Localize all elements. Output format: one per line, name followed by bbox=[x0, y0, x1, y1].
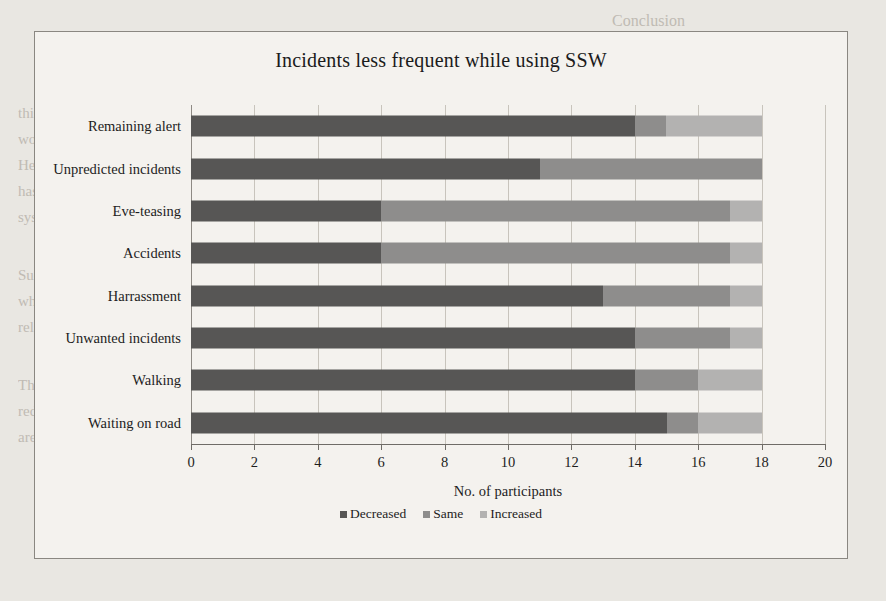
x-axis-tick-label: 8 bbox=[441, 454, 448, 471]
y-axis-category-label: Accidents bbox=[123, 246, 181, 261]
x-axis-tick-label: 2 bbox=[251, 454, 258, 471]
x-axis-tick bbox=[825, 444, 826, 450]
bar-segment-decreased bbox=[191, 285, 603, 306]
legend-swatch-increased bbox=[480, 511, 487, 518]
bar-segment-same bbox=[667, 412, 699, 433]
x-axis-tick-label: 0 bbox=[187, 454, 194, 471]
chart-row: Remaining alert bbox=[191, 105, 825, 147]
x-axis-tick-label: 14 bbox=[628, 454, 643, 471]
bar-segment-increased bbox=[730, 243, 762, 264]
bar-segment-decreased bbox=[191, 328, 635, 349]
x-axis-tick bbox=[698, 444, 699, 450]
stacked-bar bbox=[191, 116, 762, 137]
x-axis-tick bbox=[571, 444, 572, 450]
chart-row: Unwanted incidents bbox=[191, 317, 825, 359]
chart-row: Waiting on road bbox=[191, 402, 825, 444]
x-axis-tick bbox=[445, 444, 446, 450]
stacked-bar bbox=[191, 370, 762, 391]
bar-segment-increased bbox=[730, 285, 762, 306]
legend-item-same[interactable]: Same bbox=[423, 506, 463, 522]
x-axis-tick bbox=[508, 444, 509, 450]
x-axis-tick-label: 10 bbox=[501, 454, 516, 471]
legend-item-increased[interactable]: Increased bbox=[480, 506, 542, 522]
y-axis-category-label: Eve-teasing bbox=[113, 204, 181, 219]
stacked-bar bbox=[191, 200, 762, 221]
chart-row: Harrassment bbox=[191, 275, 825, 317]
y-axis-category-label: Walking bbox=[132, 373, 181, 388]
bar-segment-decreased bbox=[191, 158, 540, 179]
bar-segment-decreased bbox=[191, 116, 635, 137]
x-axis-title: No. of participants bbox=[191, 483, 825, 500]
plot-area: Remaining alertUnpredicted incidentsEve-… bbox=[191, 105, 854, 444]
stacked-bar bbox=[191, 285, 762, 306]
legend-label: Same bbox=[433, 506, 463, 522]
bar-segment-decreased bbox=[191, 412, 667, 433]
x-axis-tick-label: 20 bbox=[818, 454, 833, 471]
legend-label: Decreased bbox=[350, 506, 406, 522]
bar-segment-same bbox=[540, 158, 762, 179]
bar-segment-same bbox=[603, 285, 730, 306]
stacked-bar bbox=[191, 328, 762, 349]
stacked-bar bbox=[191, 412, 762, 433]
bar-segment-decreased bbox=[191, 243, 381, 264]
bar-segment-increased bbox=[698, 370, 761, 391]
bar-segment-increased bbox=[730, 328, 762, 349]
y-axis-category-label: Remaining alert bbox=[88, 119, 181, 134]
bar-segment-same bbox=[381, 200, 730, 221]
x-axis-tick-label: 16 bbox=[691, 454, 706, 471]
x-axis-tick-label: 4 bbox=[314, 454, 321, 471]
x-axis-tick-label: 18 bbox=[754, 454, 769, 471]
chart-row: Accidents bbox=[191, 232, 825, 274]
bar-segment-same bbox=[381, 243, 730, 264]
chart-row: Unpredicted incidents bbox=[191, 147, 825, 189]
chart-figure: Incidents less frequent while using SSW … bbox=[34, 31, 848, 559]
bar-segment-same bbox=[635, 116, 667, 137]
bar-segment-increased bbox=[698, 412, 761, 433]
chart-row: Eve-teasing bbox=[191, 190, 825, 232]
y-axis-category-label: Waiting on road bbox=[88, 416, 181, 431]
bar-segment-decreased bbox=[191, 200, 381, 221]
x-axis-tick bbox=[635, 444, 636, 450]
x-axis-tick-label: 6 bbox=[378, 454, 385, 471]
chart-legend: DecreasedSameIncreased bbox=[35, 506, 847, 522]
legend-label: Increased bbox=[490, 506, 542, 522]
legend-item-decreased[interactable]: Decreased bbox=[340, 506, 406, 522]
bar-segment-increased bbox=[666, 116, 761, 137]
y-axis-category-label: Harrassment bbox=[108, 288, 181, 303]
legend-swatch-decreased bbox=[340, 511, 347, 518]
stacked-bar bbox=[191, 158, 762, 179]
stacked-bar bbox=[191, 243, 762, 264]
y-axis-category-label: Unwanted incidents bbox=[65, 331, 181, 346]
y-axis-category-label: Unpredicted incidents bbox=[53, 161, 181, 176]
x-axis-tick bbox=[254, 444, 255, 450]
x-axis-tick bbox=[381, 444, 382, 450]
chart-row: Walking bbox=[191, 359, 825, 401]
x-axis-tick bbox=[762, 444, 763, 450]
bar-segment-same bbox=[635, 370, 698, 391]
bar-segment-decreased bbox=[191, 370, 635, 391]
grid-line bbox=[825, 105, 826, 444]
x-axis-tick bbox=[318, 444, 319, 450]
chart-title: Incidents less frequent while using SSW bbox=[35, 49, 847, 72]
bar-segment-increased bbox=[730, 200, 762, 221]
x-axis-tick bbox=[191, 444, 192, 450]
legend-swatch-same bbox=[423, 511, 430, 518]
bar-segment-same bbox=[635, 328, 730, 349]
x-axis-tick-label: 12 bbox=[564, 454, 579, 471]
